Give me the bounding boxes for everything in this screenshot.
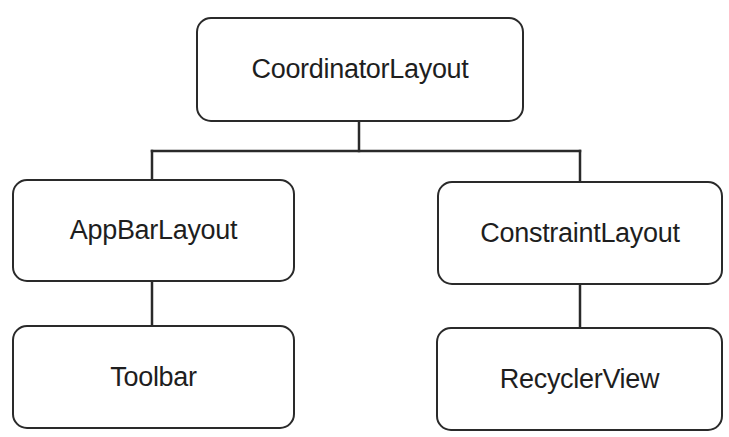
node-label: ConstraintLayout bbox=[480, 218, 679, 249]
node-label: AppBarLayout bbox=[70, 215, 238, 246]
node-label: CoordinatorLayout bbox=[251, 54, 468, 85]
node-toolbar: Toolbar bbox=[12, 325, 295, 429]
node-recyclerview: RecyclerView bbox=[436, 327, 723, 431]
node-label: RecyclerView bbox=[500, 364, 659, 395]
node-coordinatorlayout: CoordinatorLayout bbox=[196, 17, 524, 122]
node-appbarlayout: AppBarLayout bbox=[12, 179, 295, 282]
node-constraintlayout: ConstraintLayout bbox=[437, 181, 723, 285]
node-label: Toolbar bbox=[110, 362, 196, 393]
